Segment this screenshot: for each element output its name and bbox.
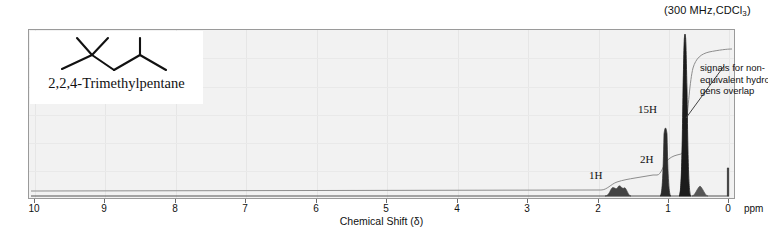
spectrometer-conditions: (300 MHz,CDCl3): [664, 4, 751, 18]
x-tick-label: 9: [101, 203, 107, 214]
x-axis-unit: ppm: [744, 203, 763, 214]
nmr-spectrum-figure: (300 MHz,CDCl3): [0, 0, 768, 233]
x-tick-label: 5: [383, 203, 389, 214]
x-tick-label: 8: [172, 203, 178, 214]
peak-tms: [727, 168, 728, 196]
annotation-line-3: gens overlap: [700, 85, 766, 97]
conditions-text: (300 MHz,CDCl: [664, 4, 742, 16]
skeletal-structure-icon: [52, 35, 182, 75]
integration-label-1h: 1H: [589, 169, 602, 181]
x-tick-label: 7: [242, 203, 248, 214]
x-axis-title: Chemical Shift (δ): [28, 215, 735, 227]
peak-shoulder: [692, 186, 708, 196]
x-tick-label: 10: [28, 203, 39, 214]
peak-2h: [660, 128, 671, 196]
conditions-suffix: ): [747, 4, 751, 16]
x-tick-label: 6: [313, 203, 319, 214]
integration-label-2h: 2H: [640, 153, 653, 165]
x-tick-label: 1: [665, 203, 671, 214]
integration-label-15h: 15H: [638, 103, 657, 115]
annotation-line-1: signals for non-: [700, 62, 766, 74]
x-tick-label: 0: [725, 203, 731, 214]
overlap-annotation: signals for non- equivalent hydro- gens …: [700, 62, 766, 97]
x-axis: 10 9 8 7 6 5 4 3 2 1 0 ppm Chemical Shif…: [28, 199, 735, 233]
x-tick-label: 2: [595, 203, 601, 214]
compound-name: 2,2,4-Trimethylpentane: [30, 75, 203, 92]
x-tick-label: 3: [524, 203, 530, 214]
spectrum-plot-area: 2,2,4-Trimethylpentane 1H 2H 15H: [28, 29, 735, 199]
x-tick-label: 4: [454, 203, 460, 214]
annotation-line-2: equivalent hydro-: [700, 74, 766, 86]
structure-inset: 2,2,4-Trimethylpentane: [30, 31, 203, 104]
